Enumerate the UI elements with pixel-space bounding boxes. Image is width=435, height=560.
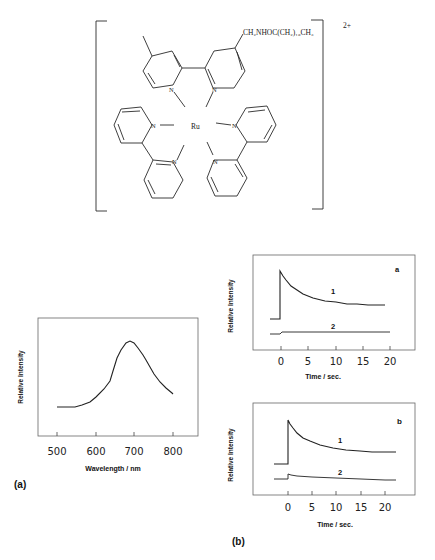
y-axis-label: Relative Intensity — [227, 279, 235, 333]
x-tick-label: 10 — [330, 502, 343, 513]
trace-2 — [270, 332, 390, 334]
n-atom: N — [172, 158, 177, 165]
chart-b-b: 1 2 b 0 5 10 15 20 Time / sec. Relative … — [227, 403, 415, 547]
trace-1-label: 1 — [331, 287, 335, 296]
x-axis-label: Wavelength / nm — [85, 465, 140, 473]
ring-bottom-right — [207, 160, 247, 196]
x-tick-label: 600 — [86, 446, 105, 457]
trace-1-label: 1 — [338, 436, 342, 445]
chemical-structure — [96, 20, 323, 211]
trace-2 — [274, 474, 396, 480]
ring-mid-left — [114, 107, 152, 143]
trace-1 — [270, 271, 385, 319]
y-axis-label: Relative Intensity — [17, 350, 25, 404]
x-tick-label: 0 — [285, 502, 291, 513]
inset-label: a — [395, 265, 400, 274]
substituent-label: CH₂NHOC(CH₂)₁₆CH₃ — [243, 28, 314, 37]
x-tick-label: 20 — [379, 502, 392, 513]
x-tick-label: 10 — [330, 356, 343, 367]
trace-1 — [274, 420, 396, 464]
x-axis-label: Time / sec. — [305, 373, 341, 380]
y-axis-label: Relative Intensity — [227, 428, 235, 482]
chart-a-frame — [38, 318, 198, 436]
n-atom: N — [151, 122, 156, 129]
inset-label: b — [397, 417, 402, 426]
structure-labels: CH₂NHOC(CH₂)₁₆CH₃ 2+ Ru N N N N N N — [151, 21, 351, 165]
n-atom: N — [212, 86, 217, 93]
left-bracket — [96, 21, 107, 211]
x-axis-label: Time / sec. — [317, 521, 353, 528]
ring-top-right — [205, 48, 245, 88]
trace-2-label: 2 — [338, 468, 342, 477]
panel-label-a: (a) — [14, 479, 26, 490]
x-tick-label: 5 — [305, 356, 311, 367]
x-tick-label: 5 — [309, 502, 315, 513]
n-atom: N — [169, 86, 174, 93]
x-tick-label: 15 — [357, 356, 370, 367]
x-tick-label: 500 — [47, 446, 66, 457]
panel-label-b: (b) — [232, 536, 245, 547]
emission-curve — [57, 341, 173, 407]
chart-a: 500 600 700 800 Wavelength / nm Relative… — [14, 318, 198, 490]
ring-bottom-left — [144, 160, 183, 198]
figure-canvas: CH₂NHOC(CH₂)₁₆CH₃ 2+ Ru N N N N N N 500 … — [0, 0, 435, 560]
n-atom: N — [232, 122, 237, 129]
chart-b-a-frame — [253, 255, 415, 350]
right-bracket — [311, 20, 323, 209]
x-tick-label: 800 — [163, 446, 182, 457]
metal-label: Ru — [191, 122, 200, 131]
ring-top-left — [143, 51, 182, 88]
x-tick-label: 0 — [278, 356, 284, 367]
x-tick-label: 700 — [124, 446, 143, 457]
chart-b-a: 1 2 a 0 5 10 15 20 Time / sec. Relative … — [227, 255, 415, 380]
n-atom: N — [213, 158, 218, 165]
x-tick-label: 15 — [355, 502, 368, 513]
charge-label: 2+ — [343, 21, 351, 30]
chart-b-b-frame — [253, 403, 415, 495]
trace-2-label: 2 — [331, 322, 335, 331]
x-tick-label: 20 — [384, 356, 397, 367]
